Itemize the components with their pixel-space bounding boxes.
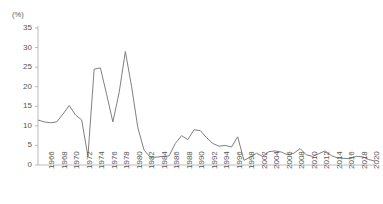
- x-axis-tick-label: 1998: [247, 151, 256, 169]
- x-axis-tick-label: 2002: [260, 151, 269, 169]
- y-axis-tick-label: 30: [10, 43, 32, 52]
- x-axis-tick-label: 2020: [372, 151, 381, 169]
- x-axis-tick-label: 2016: [347, 151, 356, 169]
- x-axis-tick-label: 2008: [297, 151, 306, 169]
- x-axis-tick-label: 1968: [60, 151, 69, 169]
- x-axis-tick-label: 1978: [122, 151, 131, 169]
- x-axis-tick-label: 1976: [110, 151, 119, 169]
- x-axis-tick-label: 1970: [72, 151, 81, 169]
- x-axis-tick-label: 1984: [160, 151, 169, 169]
- y-axis-tick-label: 20: [10, 82, 32, 91]
- y-axis-tick-label: 25: [10, 62, 32, 71]
- x-axis-tick-label: 2018: [360, 151, 369, 169]
- x-axis-tick-label: 1966: [47, 151, 56, 169]
- plot-area: [0, 0, 383, 204]
- y-axis-tick-label: 35: [10, 23, 32, 32]
- x-axis-tick-label: 2006: [285, 151, 294, 169]
- x-axis-tick-label: 1994: [222, 151, 231, 169]
- x-axis-tick-label: 1992: [210, 151, 219, 169]
- x-axis-tick-label: 2014: [335, 151, 344, 169]
- x-axis-tick-label: 1980: [135, 151, 144, 169]
- x-axis-tick-label: 1990: [197, 151, 206, 169]
- x-axis-tick-label: 1996: [235, 151, 244, 169]
- x-axis-tick-label: 1974: [97, 151, 106, 169]
- x-axis-tick-label: 1982: [147, 151, 156, 169]
- y-axis-tick-label: 0: [10, 160, 32, 169]
- y-axis-tick-label: 5: [10, 140, 32, 149]
- y-axis-tick-label: 15: [10, 101, 32, 110]
- x-axis-tick-label: 1988: [185, 151, 194, 169]
- x-axis-tick-label: 1986: [172, 151, 181, 169]
- y-axis-tick-label: 10: [10, 121, 32, 130]
- x-axis-tick-label: 1972: [85, 151, 94, 169]
- x-axis-tick-label: 2012: [322, 151, 331, 169]
- line-chart: (%) 051015202530351966196819701972197419…: [0, 0, 383, 204]
- x-axis-tick-label: 2004: [272, 151, 281, 169]
- x-axis-tick-label: 2010: [310, 151, 319, 169]
